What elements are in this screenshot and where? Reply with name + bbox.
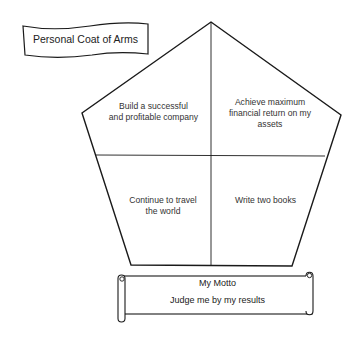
motto-text: Judge me by my results xyxy=(125,295,310,305)
motto-heading: My Motto xyxy=(125,278,310,288)
quadrant-text-line: the world xyxy=(115,206,211,217)
quadrant-text-line: financial return on my xyxy=(215,108,325,119)
quadrant-text-line: Build a successful xyxy=(96,101,211,112)
quadrant-bottom-left: Continue to travel the world xyxy=(115,195,211,217)
quadrant-text-line: Achieve maximum xyxy=(215,97,325,108)
shield-outline xyxy=(82,22,341,266)
motto-scroll-left-roll xyxy=(118,275,125,322)
title-banner-label: Personal Coat of Arms xyxy=(23,33,148,45)
quadrant-text-line: Write two books xyxy=(213,195,318,206)
quadrant-text-line: and profitable company xyxy=(96,112,211,123)
quadrant-text-line: assets xyxy=(215,119,325,130)
quadrant-bottom-right: Write two books xyxy=(213,195,318,206)
quadrant-top-right: Achieve maximum financial return on my a… xyxy=(215,97,325,130)
quadrant-top-left: Build a successful and profitable compan… xyxy=(96,101,211,123)
quadrant-text-line: Continue to travel xyxy=(115,195,211,206)
